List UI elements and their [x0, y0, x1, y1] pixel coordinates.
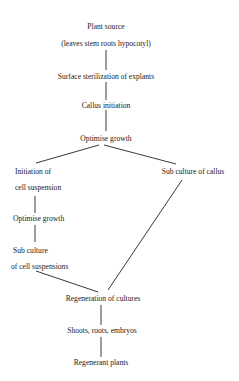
edge-sub-culture-callus-to-regeneration — [108, 180, 182, 290]
node-surface-sterilization: Surface sterilization of explants — [58, 72, 154, 81]
edge-optimise-growth-to-sub-culture-callus — [104, 145, 176, 164]
node-sub-culture-callus: Sub culture of callus — [162, 167, 225, 176]
edge-optimise-growth-to-initiation-cell-suspension — [36, 145, 99, 163]
node-sub-culture-cell-suspensions: Sub culture — [13, 246, 48, 255]
node-optimise-growth-1: Optimise growth — [80, 134, 131, 143]
flowchart: Plant source (leaves stem roots hypocoty… — [0, 0, 239, 381]
node-plant-source: Plant source — [87, 22, 125, 31]
node-sub-culture-cell-suspensions-2: of cell suspensions — [11, 262, 68, 271]
node-shoots-roots-embryos: Shoots, roots, embryos — [67, 326, 137, 335]
node-regeneration-cultures: Regeneration of cultures — [66, 294, 141, 303]
node-callus-initiation: Callus initiation — [82, 101, 131, 110]
node-optimise-growth-2: Optimise growth — [13, 214, 64, 223]
node-initiation-cell-suspension-2: cell suspension — [15, 183, 61, 192]
edge-sub-culture-cell-suspensions-to-regeneration — [36, 271, 98, 292]
node-initiation-cell-suspension: Initiation of — [15, 167, 52, 176]
node-plant-source-detail: (leaves stem roots hypocotyl) — [61, 39, 151, 48]
node-regenerant-plants: Regenerant plants — [74, 358, 129, 367]
